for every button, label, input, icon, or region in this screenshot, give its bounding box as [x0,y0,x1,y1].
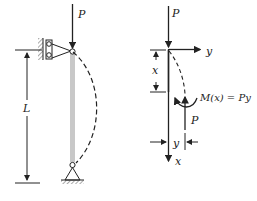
moment-arrow-icon [175,98,197,107]
moment-label: M(x) = Py [199,92,251,103]
column-bar [70,54,75,162]
right-free-body-figure: P y x x P M(x) = Py y [150,6,251,168]
segment-label: x [152,64,159,77]
bottom-pin-support-icon [61,162,84,184]
top-roller-support-icon [38,38,75,60]
top-load-label: P [171,7,180,20]
load-label: P [77,8,86,21]
deflected-segment [169,51,185,94]
x-axis-label: x [175,155,182,168]
deflection-dimension: y [150,133,198,150]
reaction-label: P [190,114,199,127]
length-dimension: L [15,50,42,183]
length-label: L [22,102,30,115]
left-column-figure: P L [15,4,97,184]
column-buckling-diagram: P L P [0,0,257,201]
buckled-shape [73,52,97,163]
segment-dimension: x [150,50,166,92]
y-axis-label: y [205,45,213,58]
deflection-label: y [172,137,180,150]
